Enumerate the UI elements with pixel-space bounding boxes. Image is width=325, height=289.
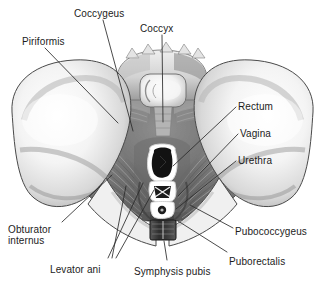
urethral-opening [151, 202, 175, 219]
label-coccyx: Coccyx [140, 23, 173, 34]
label-symphysis-pubis: Symphysis pubis [134, 266, 211, 277]
symphysis-block [150, 220, 176, 240]
label-obturator-internus: Obturator internus [8, 224, 51, 246]
label-piriformis: Piriformis [22, 36, 65, 47]
label-pubococcygeus: Pubococcygeus [235, 226, 307, 237]
rectal-opening [147, 144, 177, 182]
label-obturator-internus-line2: internus [8, 235, 51, 246]
label-puborectalis: Puborectalis [229, 256, 285, 267]
label-coccygeus: Coccygeus [74, 8, 124, 19]
label-obturator-internus-line1: Obturator [8, 224, 51, 235]
label-rectum: Rectum [238, 101, 273, 112]
label-urethra: Urethra [238, 155, 272, 166]
label-levator-ani: Levator ani [50, 264, 101, 275]
pelvic-floor-figure: Coccygeus Coccyx Piriformis Rectum Vagin… [0, 0, 325, 289]
label-vagina: Vagina [240, 128, 271, 139]
